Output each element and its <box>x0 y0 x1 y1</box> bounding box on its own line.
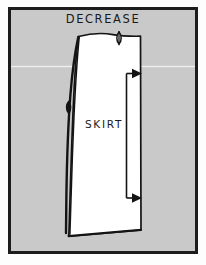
waist-notch-marker-icon <box>117 31 121 45</box>
pattern-diagram-figure: DECREASE SKIRT <box>0 0 206 265</box>
pattern-diagram-canvas: DECREASE SKIRT <box>0 0 206 265</box>
figure-title: DECREASE <box>66 12 141 26</box>
pattern-piece-label: SKIRT <box>85 118 123 130</box>
skirt-piece-body <box>69 34 142 237</box>
side-seam-marker-icon <box>67 102 71 114</box>
